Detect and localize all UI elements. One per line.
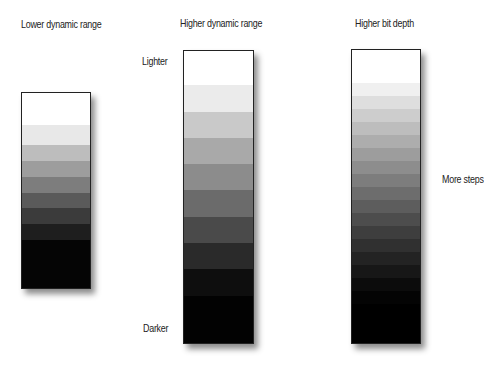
title-lower-dynamic-range: Lower dynamic range [21,18,101,30]
title-higher-dynamic-range: Higher dynamic range [180,17,262,29]
gray-step-band [184,190,253,216]
annotation-darker: Darker [143,322,168,334]
gray-step-band [352,135,420,148]
gray-step-band [352,174,420,187]
gray-step-band [352,200,420,213]
gray-step-band [22,125,90,145]
gray-step-band [22,240,90,288]
annotation-more-steps: More steps [442,173,484,185]
gray-step-band [184,164,253,190]
title-higher-bit-depth: Higher bit depth [355,17,414,29]
gray-step-band [22,177,90,193]
gray-step-band [352,252,420,265]
grayscale-bar-higher-dynamic-range [183,50,254,344]
gray-step-band [184,51,253,85]
gray-step-band [352,122,420,135]
gray-step-band [352,50,420,83]
gray-step-band [184,243,253,269]
gray-step-band [22,193,90,209]
gray-step-band [22,161,90,177]
gray-step-band [22,224,90,240]
gray-step-band [352,278,420,291]
gray-step-band [352,96,420,109]
gray-step-band [22,93,90,125]
gray-step-band [352,226,420,239]
gray-step-band [352,213,420,226]
gray-step-band [352,109,420,122]
grayscale-bar-lower-dynamic-range [21,92,91,289]
gray-step-band [184,85,253,111]
gray-step-band [352,265,420,278]
gray-step-band [184,138,253,164]
gray-step-band [184,296,253,343]
gray-step-band [352,291,420,304]
gray-step-band [184,269,253,295]
gray-step-band [352,187,420,200]
gray-step-band [352,148,420,161]
gray-step-band [352,304,420,343]
gray-step-band [22,208,90,224]
gray-step-band [352,161,420,174]
grayscale-bar-higher-bit-depth [351,49,421,344]
gray-step-band [352,239,420,252]
gray-step-band [184,217,253,243]
gray-step-band [352,83,420,96]
annotation-lighter: Lighter [142,55,168,67]
gray-step-band [22,145,90,161]
gray-step-band [184,112,253,138]
